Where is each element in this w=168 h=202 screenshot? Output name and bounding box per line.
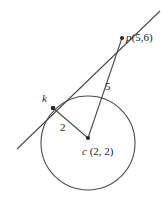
label-point-c-coords: (2, 2): [90, 145, 114, 157]
label-point-k: k: [42, 93, 47, 104]
label-segment-pc-length: 5: [105, 81, 111, 92]
point-p-marker: [120, 36, 124, 40]
segment-k-to-c-radius: [53, 108, 88, 138]
label-point-p: p(5,6): [126, 32, 153, 43]
label-point-p-coords: (5,6): [132, 31, 153, 43]
geometry-figure: p(5,6) k c (2, 2) 5 2: [0, 0, 168, 202]
label-point-c-name: c: [82, 145, 87, 157]
label-point-c: c (2, 2): [82, 146, 113, 157]
label-segment-kc-length: 2: [60, 122, 66, 133]
point-c-marker: [86, 136, 90, 140]
point-k-marker: [51, 106, 56, 111]
